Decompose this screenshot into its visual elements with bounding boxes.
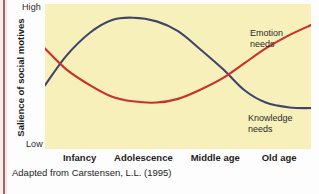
x-axis-label-middle-age: Middle age: [191, 152, 240, 163]
x-axis-tick-labels: InfancyAdolescenceMiddle ageOld age: [45, 152, 311, 166]
series-label-emotion-needs: Emotion needs: [250, 28, 283, 50]
x-axis-label-adolescence: Adolescence: [114, 152, 173, 163]
y-axis-title: Salience of social motives: [15, 18, 26, 138]
x-axis-label-infancy: Infancy: [63, 152, 96, 163]
series-label-knowledge-line2: needs: [248, 124, 293, 135]
series-label-knowledge-line1: Knowledge: [248, 113, 293, 124]
figure-container: High Low Salience of social motives Infa…: [0, 0, 319, 194]
y-axis-tick-high: High: [22, 2, 41, 12]
series-label-emotion-line1: Emotion: [250, 28, 283, 39]
series-label-emotion-line2: needs: [250, 39, 283, 50]
x-axis-label-old-age: Old age: [262, 152, 297, 163]
page-edge-inner: [5, 0, 7, 194]
y-axis-tick-low: Low: [26, 139, 43, 149]
series-label-knowledge-needs: Knowledge needs: [248, 113, 293, 135]
figure-caption: Adapted from Carstensen, L.L. (1995): [12, 167, 171, 178]
